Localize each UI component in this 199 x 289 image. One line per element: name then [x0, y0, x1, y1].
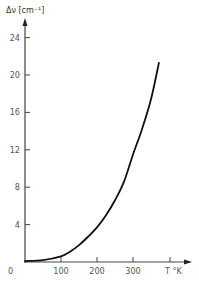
y-tick-label: 20: [10, 70, 20, 80]
y-axis-title: Δν [cm⁻¹]: [6, 6, 44, 15]
x-tick-label: 0: [8, 266, 13, 276]
y-ticks: 4812162024: [10, 33, 30, 230]
y-tick-label: 8: [15, 182, 20, 192]
y-tick-label: 24: [10, 33, 20, 43]
y-tick-label: 12: [10, 145, 20, 155]
x-tick-label: 100: [53, 266, 68, 276]
y-tick-label: 16: [10, 107, 20, 117]
x-tick-label: 200: [89, 266, 104, 276]
x-tick-label: 300: [125, 266, 140, 276]
data-curve: [25, 63, 159, 261]
y-tick-label: 4: [15, 220, 20, 230]
x-axis-arrow-icon: [184, 260, 192, 265]
axes: [23, 18, 193, 265]
y-axis-arrow-icon: [23, 18, 28, 26]
x-ticks: 0100200300: [8, 257, 170, 276]
chart-canvas: 4812162024 0100200300 Δν [cm⁻¹] T °K: [0, 0, 199, 289]
x-axis-title: T °K: [164, 266, 183, 276]
